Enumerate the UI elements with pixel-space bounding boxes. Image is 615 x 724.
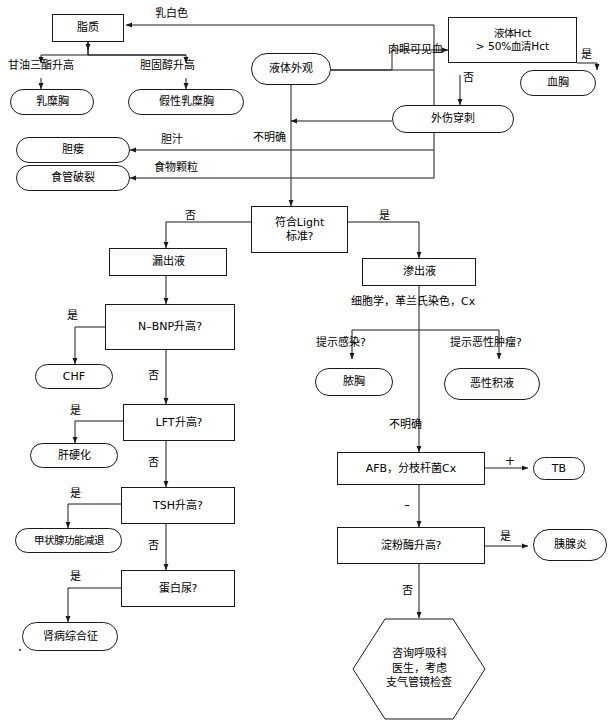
node-chylothorax-label: 乳糜胸 (36, 95, 69, 109)
node-pseudochylothorax-label: 假性乳糜胸 (159, 95, 214, 109)
node-fluid-hct-label: 液体Hct > 50%血清Hct (476, 27, 549, 53)
node-nephrotic-syndrome[interactable]: 肾病综合征 (22, 622, 118, 651)
node-nephrotic-syndrome-label: 肾病综合征 (43, 630, 98, 644)
edge-label-indeterminate-exudate: 不明确 (389, 419, 422, 430)
node-lft-label: LFT升高? (156, 416, 203, 430)
node-pseudochylothorax[interactable]: 假性乳糜胸 (128, 89, 244, 115)
node-tsh-label: TSH升高? (153, 499, 203, 513)
node-chylothorax[interactable]: 乳糜胸 (10, 89, 94, 115)
edge-label-nbnp-yes: 是 (67, 310, 78, 321)
edge-label-suggests-malignancy: 提示恶性肿瘤? (450, 337, 522, 348)
node-transudate[interactable]: 漏出液 (109, 248, 227, 276)
node-cirrhosis[interactable]: 肝硬化 (30, 443, 118, 468)
edge-label-gross-blood: 肉眼可见血 (388, 44, 443, 55)
node-esophageal-rupture[interactable]: 食管破裂 (16, 165, 130, 191)
edge-label-cytology-gram-cx: 细胞学，革兰氏染色，Cx (351, 296, 475, 307)
edge-label-milky-white: 乳白色 (155, 8, 188, 19)
node-proteinuria[interactable]: 蛋白尿? (121, 570, 235, 607)
node-nbnp[interactable]: N–BNP升高? (105, 304, 235, 350)
node-traumatic-tap-label: 外伤穿刺 (431, 112, 475, 126)
node-exudate-label: 渗出液 (403, 265, 436, 279)
node-malignant-effusion[interactable]: 恶性积液 (444, 368, 540, 400)
node-pancreatitis[interactable]: 胰腺炎 (533, 529, 607, 561)
node-fluid-hct[interactable]: 液体Hct > 50%血清Hct (448, 17, 577, 63)
scan-artifact-speck (19, 649, 21, 651)
node-amylase[interactable]: 淀粉酶升高? (337, 527, 485, 564)
node-hemothorax-label: 血胸 (547, 76, 569, 90)
node-lipid[interactable]: 脂质 (52, 14, 124, 42)
node-biliary-fistula-label: 胆瘘 (62, 143, 84, 157)
edge-label-amylase-yes: 是 (500, 531, 511, 542)
edge-label-light-no: 否 (185, 210, 196, 221)
edge-label-afb-positive: + (505, 455, 515, 467)
node-pancreatitis-label: 胰腺炎 (554, 538, 587, 552)
edge-label-food-particles: 食物颗粒 (154, 162, 198, 173)
edge-label-proteinuria-yes: 是 (70, 571, 81, 582)
node-consult-pulmonology-label: 咨询呼吸科 医生，考虑 支气管镜检查 (386, 647, 452, 692)
node-esophageal-rupture-label: 食管破裂 (51, 171, 95, 185)
node-biliary-fistula[interactable]: 胆瘘 (16, 137, 130, 163)
node-lft[interactable]: LFT升高? (123, 404, 235, 441)
edge-label-tsh-no: 否 (148, 540, 159, 551)
edge-label-hct-yes: 是 (581, 49, 592, 60)
edge-label-light-yes: 是 (379, 210, 390, 221)
node-tsh[interactable]: TSH升高? (121, 487, 235, 524)
node-tb[interactable]: TB (533, 457, 585, 480)
node-traumatic-tap[interactable]: 外伤穿刺 (392, 105, 514, 133)
node-afb-culture[interactable]: AFB，分枝杆菌Cx (337, 452, 485, 485)
edge-label-indeterminate-appearance: 不明确 (253, 132, 286, 143)
edge-label-triglyceride-high: 甘油三酯升高 (8, 60, 74, 71)
node-empyema[interactable]: 脓胸 (315, 368, 393, 396)
edge-label-suggests-infection: 提示感染? (316, 337, 366, 348)
node-tb-label: TB (552, 462, 566, 476)
node-hemothorax[interactable]: 血胸 (520, 70, 596, 96)
edge-label-afb-negative: – (404, 499, 410, 511)
edge-label-bile: 胆汁 (161, 134, 183, 145)
node-consult-pulmonology[interactable]: 咨询呼吸科 医生，考虑 支气管镜检查 (352, 618, 486, 720)
node-nbnp-label: N–BNP升高? (138, 320, 202, 334)
edge-label-nbnp-no: 否 (148, 370, 159, 381)
node-light-criteria[interactable]: 符合Light 标准? (251, 206, 348, 253)
node-malignant-effusion-label: 恶性积液 (470, 377, 514, 391)
node-empyema-label: 脓胸 (343, 375, 365, 389)
node-fluid-appearance-label: 液体外观 (269, 62, 313, 76)
edge-label-amylase-no: 否 (402, 585, 413, 596)
node-hypothyroidism-label: 甲状腺功能减退 (34, 534, 104, 547)
node-lipid-label: 脂质 (77, 21, 99, 35)
flowchart-canvas: 脂质 乳糜胸 假性乳糜胸 胆瘘 食管破裂 液体外观 液体Hct > 50%血清H… (0, 0, 615, 724)
node-amylase-label: 淀粉酶升高? (381, 539, 442, 553)
edge-label-lft-no: 否 (148, 457, 159, 468)
node-chf[interactable]: CHF (35, 364, 113, 389)
node-light-criteria-label: 符合Light 标准? (275, 216, 324, 244)
node-exudate[interactable]: 渗出液 (362, 258, 476, 286)
edge-label-lft-yes: 是 (70, 405, 81, 416)
node-chf-label: CHF (63, 370, 85, 384)
edge-label-tsh-yes: 是 (70, 488, 81, 499)
node-transudate-label: 漏出液 (152, 255, 185, 269)
edge-label-hct-no: 否 (463, 72, 474, 83)
node-afb-culture-label: AFB，分枝杆菌Cx (366, 462, 457, 476)
edge-label-cholesterol-high: 胆固醇升高 (140, 60, 195, 71)
edge-layer (0, 0, 615, 724)
node-hypothyroidism[interactable]: 甲状腺功能减退 (15, 528, 122, 553)
node-fluid-appearance[interactable]: 液体外观 (251, 53, 331, 85)
node-proteinuria-label: 蛋白尿? (159, 582, 198, 596)
node-cirrhosis-label: 肝硬化 (58, 449, 91, 463)
